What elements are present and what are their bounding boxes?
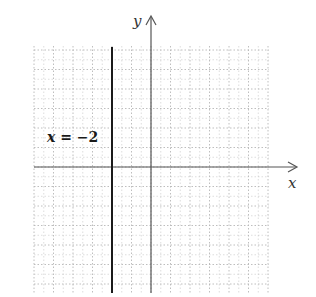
equation-label: x = −2: [47, 129, 98, 145]
coordinate-plane: [0, 0, 316, 297]
equation-value: −2: [77, 129, 98, 145]
y-axis: [146, 16, 156, 293]
equation-operator: =: [60, 129, 72, 145]
y-axis-label: y: [133, 12, 141, 30]
x-axis: [34, 162, 297, 172]
equation-variable: x: [47, 129, 55, 145]
x-axis-label: x: [288, 174, 296, 192]
